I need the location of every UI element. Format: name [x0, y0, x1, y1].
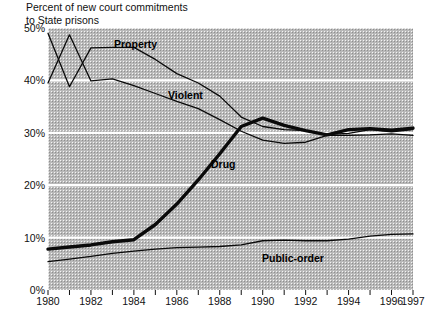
- series-line-violent: [48, 35, 413, 143]
- x-tick-label: 1980: [36, 295, 59, 307]
- x-tick-label: 1984: [122, 295, 145, 307]
- x-tick-label: 1988: [208, 295, 231, 307]
- x-tick-label: 1997: [401, 295, 424, 307]
- series-line-drug: [48, 118, 413, 249]
- series-line-property: [48, 33, 413, 134]
- series-label-public-order: Public-order: [262, 252, 324, 264]
- x-tick-label: 1982: [79, 295, 102, 307]
- x-tick-label: 1990: [251, 295, 274, 307]
- series-label-violent: Violent: [168, 89, 203, 101]
- series-label-property: Property: [114, 38, 157, 50]
- x-tick-label: 1986: [165, 295, 188, 307]
- x-tick-label: 1994: [337, 295, 360, 307]
- series-label-drug: Drug: [211, 158, 236, 170]
- chart-figure: Percent of new court commitments to Stat…: [0, 0, 438, 310]
- x-tick-label: 1996: [380, 295, 403, 307]
- x-tick-label: 1992: [294, 295, 317, 307]
